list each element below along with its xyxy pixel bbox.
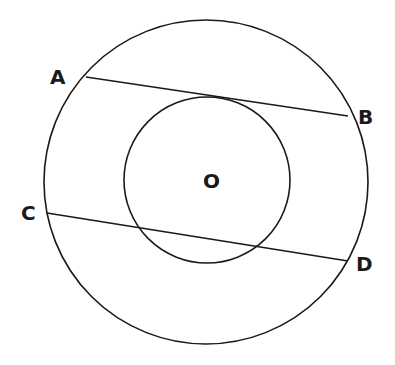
- chord-ab: [86, 77, 348, 116]
- label-b: B: [358, 105, 373, 129]
- diagram-canvas: A B C D O: [0, 0, 395, 365]
- chord-cd: [47, 213, 348, 261]
- label-a: A: [50, 65, 66, 89]
- label-d: D: [356, 252, 373, 276]
- label-center-o: O: [203, 169, 220, 193]
- label-c: C: [21, 201, 36, 225]
